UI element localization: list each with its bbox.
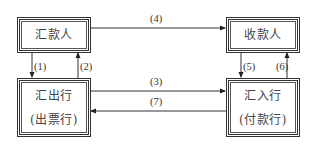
node-sublabel: (出票行) — [30, 110, 78, 130]
node-remitter: 汇款人 — [17, 17, 91, 53]
node-label: 汇款人 — [35, 25, 73, 45]
node-paying-bank: 汇入行 (付款行) — [226, 78, 300, 137]
edge-label-6: (6) — [276, 61, 288, 72]
edge-label-4: (4) — [150, 13, 162, 24]
node-remitting-bank: 汇出行 (出票行) — [17, 78, 91, 137]
node-label: 汇入行 — [244, 86, 282, 106]
edge-label-7: (7) — [150, 96, 162, 107]
node-sublabel: (付款行) — [239, 110, 287, 130]
edge-label-5: (5) — [243, 61, 255, 72]
node-label: 收款人 — [244, 25, 282, 45]
node-label: 汇出行 — [35, 86, 73, 106]
edge-label-2: (2) — [80, 61, 92, 72]
node-payee: 收款人 — [226, 17, 300, 53]
edge-label-1: (1) — [34, 61, 46, 72]
edge-label-3: (3) — [150, 76, 162, 87]
